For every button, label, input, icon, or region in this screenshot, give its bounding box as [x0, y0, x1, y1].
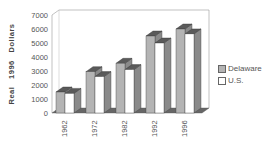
- legend-label-us: U.S.: [228, 75, 244, 87]
- x-tick-label: 1992: [150, 120, 159, 137]
- legend-swatch-us: [218, 77, 226, 85]
- bar-delaware-1992: [146, 36, 155, 113]
- x-tick-label: 1996: [180, 120, 189, 137]
- y-tick-label: 1000: [31, 95, 48, 104]
- legend-item-us: U.S.: [218, 75, 262, 87]
- bar-us-1962: [65, 93, 74, 113]
- y-tick-label: 5000: [31, 39, 48, 48]
- legend-label-delaware: Delaware: [228, 63, 262, 75]
- x-tick-label: 1962: [60, 120, 69, 137]
- y-tick-label: 0: [44, 109, 48, 118]
- legend-swatch-delaware: [218, 65, 226, 73]
- bar-delaware-1996: [176, 29, 185, 113]
- bar-delaware-1972: [86, 72, 95, 113]
- y-tick-label: 3000: [31, 67, 48, 76]
- bar-us-1992: [155, 43, 164, 113]
- y-axis-label: Real 1996 Dollars: [7, 24, 16, 105]
- bar-us-1982: [125, 70, 134, 113]
- bar-us-1996: [185, 34, 194, 113]
- y-tick-label: 2000: [31, 81, 48, 90]
- x-tick-label: 1972: [90, 120, 99, 137]
- bar-delaware-1982: [116, 63, 125, 113]
- x-tick-label: 1982: [120, 120, 129, 137]
- chart-bars: [56, 24, 201, 113]
- y-tick-label: 6000: [31, 25, 48, 34]
- y-tick-label: 4000: [31, 53, 48, 62]
- bar-us-1972: [95, 77, 104, 113]
- legend-item-delaware: Delaware: [218, 63, 262, 75]
- legend: Delaware U.S.: [218, 63, 262, 87]
- y-tick-label: 7000: [31, 11, 48, 20]
- bar-delaware-1962: [56, 92, 65, 113]
